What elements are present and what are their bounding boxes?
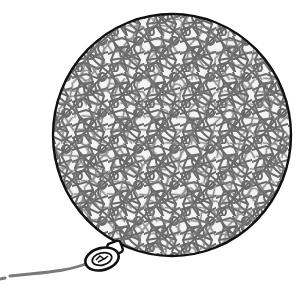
balloon-drawing [0,0,301,294]
balloon-knot [83,240,124,274]
balloon-body [40,0,301,270]
balloon-string [0,263,88,279]
balloon-illustration: balloon illustration [0,0,301,294]
